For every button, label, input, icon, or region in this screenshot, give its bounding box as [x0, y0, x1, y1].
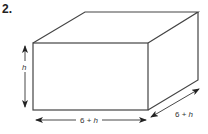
front-face — [33, 43, 148, 110]
prism-edges — [33, 12, 198, 110]
right-face — [148, 12, 198, 110]
top-face — [33, 12, 198, 43]
width-label: 6 + h — [80, 116, 99, 125]
height-label: h — [22, 63, 27, 72]
prism-diagram: h 6 + h 6 + h — [0, 0, 208, 134]
depth-label: 6 + h — [175, 110, 194, 119]
